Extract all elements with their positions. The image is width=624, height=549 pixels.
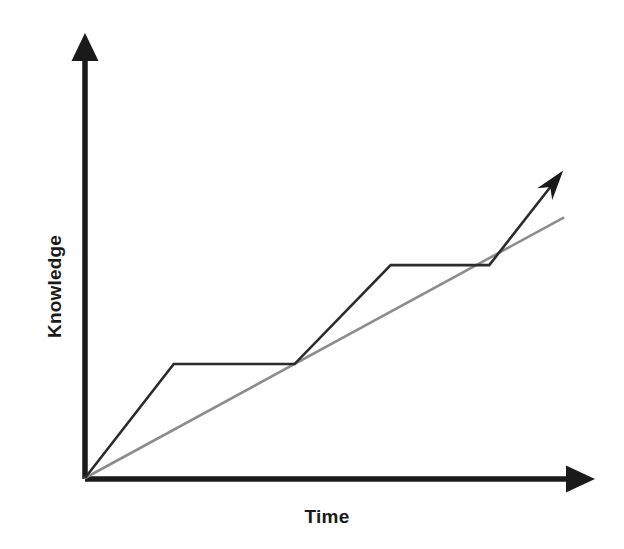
y-axis-label: Knowledge: [44, 235, 66, 338]
learning-curve-chart: Knowledge Time: [0, 0, 624, 549]
x-axis-label: Time: [287, 506, 367, 528]
chart-canvas: [0, 0, 624, 549]
